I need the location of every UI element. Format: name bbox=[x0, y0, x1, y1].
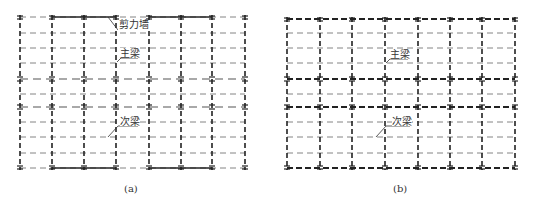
figure-a-caption: (a) bbox=[124, 183, 138, 194]
shear-wall-label: 剪力墙 bbox=[119, 18, 149, 30]
figure-a-plan: 剪力墙 主梁 次梁 (a) bbox=[17, 15, 248, 194]
figure-b-caption: (b) bbox=[393, 183, 407, 194]
structural-floor-plan-diagrams: 剪力墙 主梁 次梁 (a) bbox=[0, 0, 533, 203]
secondary-beam-label-b: 次梁 bbox=[392, 115, 412, 127]
figure-b-column-markers bbox=[284, 18, 518, 169]
figure-b-plan: 主梁 次梁 (b) bbox=[284, 17, 518, 194]
figure-b-horizontal-main-beams bbox=[287, 19, 515, 168]
figure-a-shear-walls bbox=[52, 17, 212, 168]
main-beam-label-b: 主梁 bbox=[390, 48, 410, 60]
secondary-beam-label-a: 次梁 bbox=[120, 115, 140, 127]
figure-a-vertical-main-beams bbox=[20, 15, 245, 170]
main-beam-label-a: 主梁 bbox=[120, 47, 140, 59]
figure-b-vertical-main-beams bbox=[287, 17, 515, 170]
